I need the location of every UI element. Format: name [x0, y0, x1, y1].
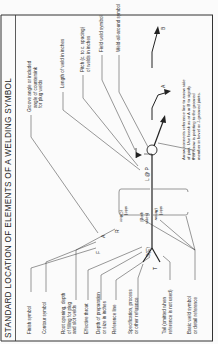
label-groove-angle-2: angle of countersink — [33, 67, 38, 108]
label-contour-symbol: Contour symbol — [42, 302, 47, 334]
break-label-B: B — [160, 27, 166, 30]
label-root-opening-1: Root opening, depth — [61, 293, 66, 334]
arrow-side-label-2: side) — [158, 206, 163, 215]
label-tail-1: Tail (omitted when — [162, 297, 167, 334]
label-specification-2: or other reference — [134, 297, 139, 334]
label-finish-symbol: Finish symbol — [27, 306, 32, 334]
label-specification-1: Specification, process — [128, 289, 133, 334]
label-basic-weld-1: Basic weld symbol — [187, 296, 192, 334]
label-weld-all-around: Weld-all-around symbol — [116, 4, 121, 52]
diagram-lines — [0, 0, 218, 344]
symbol-root-R: R — [114, 229, 120, 233]
other-side-label-2: side) — [123, 206, 128, 215]
symbol-groove-A: A — [100, 235, 106, 238]
label-groove-angle-1: Groove angle or included — [27, 61, 32, 112]
label-root-opening-3: and slot welds — [72, 305, 77, 334]
document-page: STANDARD LOCATION OF ELEMENTS OF A WELDI… — [0, 0, 218, 344]
both-sides-label-2: sides) — [145, 213, 150, 224]
label-depth-prep-1: Depth of preparation — [96, 292, 101, 334]
other-side-label-1: (Other — [118, 210, 123, 222]
label-reference-line: Reference line — [112, 304, 117, 334]
label-pitch-1: Pitch (c. to c. spacing) — [80, 27, 85, 72]
label-depth-prep-2: or size in inches — [102, 301, 107, 334]
symbol-length-pitch: L @ P — [144, 167, 150, 181]
symbol-size-S-E: S(E) — [145, 247, 151, 257]
label-basic-weld-2: or detail reference — [193, 297, 198, 334]
arrow-side-label-1: (Arrow — [153, 208, 158, 220]
symbol-finish-F: F — [95, 251, 101, 254]
symbol-tail-T: T — [152, 267, 158, 270]
label-root-opening-2: of filling for plug — [67, 302, 72, 334]
label-groove-angle-3: for plug welds — [38, 80, 43, 108]
label-effective-throat: Effective throat — [84, 303, 89, 334]
label-field-weld: Field weld symbol — [99, 15, 104, 52]
note-line-4: member in bevel or J-grooved joints. — [197, 92, 202, 160]
label-tail-2: reference is not used) — [168, 290, 173, 334]
break-label-A: A — [160, 85, 166, 88]
page-title: STANDARD LOCATION OF ELEMENTS OF A WELDI… — [4, 78, 13, 338]
label-pitch-2: of welds in inches — [86, 36, 91, 72]
label-length-of-weld: Length of weld in inches — [60, 39, 65, 88]
